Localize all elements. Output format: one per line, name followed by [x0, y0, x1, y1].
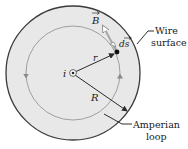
center-current-label: i: [63, 68, 66, 79]
amperian-loop-label-line2: loop: [146, 131, 167, 142]
point-on-loop: [115, 50, 120, 55]
b-vector-label: B: [91, 15, 99, 26]
radius-R-label: R: [90, 92, 99, 103]
wire-surface-label-line1: Wire: [155, 25, 178, 36]
radius-r-label: r: [93, 53, 98, 63]
ds-vector-label: ds: [119, 39, 130, 49]
current-out-of-page-icon: [70, 70, 77, 77]
amperian-loop-diagram: i r R B ds Wire surface Amperian loop: [0, 0, 188, 149]
wire-surface-label-line2: surface: [151, 37, 187, 48]
amperian-loop-label-line1: Amperian: [132, 119, 180, 130]
